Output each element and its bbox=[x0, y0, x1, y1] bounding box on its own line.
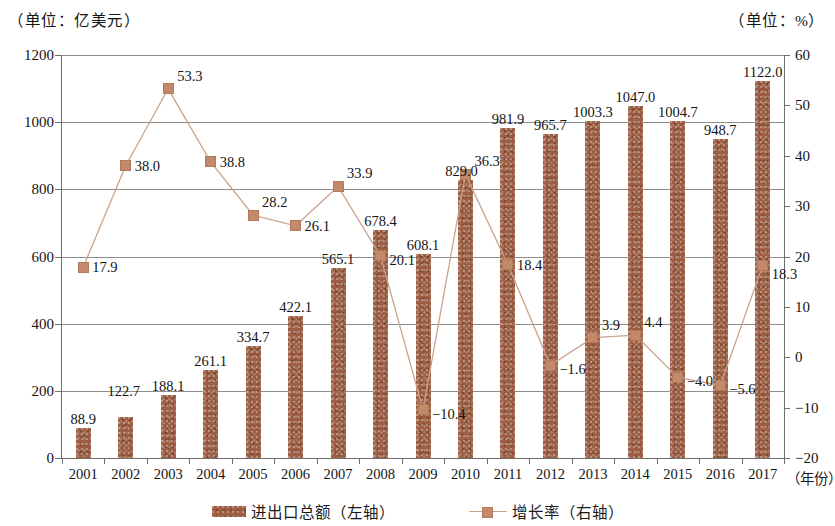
line-value-label: 26.1 bbox=[305, 219, 330, 234]
bar-value-label: 334.7 bbox=[218, 330, 288, 345]
line-marker-swatch-icon bbox=[469, 506, 507, 517]
x-tick bbox=[529, 458, 530, 464]
x-tick bbox=[189, 458, 190, 464]
growth-rate-marker bbox=[120, 160, 131, 171]
line-value-label: 28.2 bbox=[262, 195, 287, 210]
x-tick bbox=[487, 458, 488, 464]
growth-rate-marker bbox=[715, 380, 726, 391]
x-tick bbox=[444, 458, 445, 464]
right-axis-tick-label: 10 bbox=[795, 300, 835, 315]
legend-label-bar: 进出口总额（左轴） bbox=[251, 500, 395, 522]
growth-rate-marker bbox=[78, 262, 89, 273]
growth-rate-marker bbox=[545, 360, 556, 371]
chart-legend: 进出口总额（左轴） 增长率（右轴） bbox=[0, 496, 835, 526]
left-axis-tick-label: 800 bbox=[0, 182, 54, 197]
left-tick bbox=[55, 458, 61, 459]
right-tick bbox=[784, 105, 790, 106]
right-tick bbox=[784, 408, 790, 409]
line-value-label: −1.6 bbox=[559, 362, 585, 377]
x-tick bbox=[784, 458, 785, 464]
left-tick bbox=[55, 257, 61, 258]
growth-rate-marker bbox=[375, 250, 386, 261]
right-tick bbox=[784, 307, 790, 308]
bar-value-label: 1122.0 bbox=[728, 65, 798, 80]
bar-value-label: 608.1 bbox=[388, 238, 458, 253]
right-axis-tick-label: −10 bbox=[795, 401, 835, 416]
x-tick bbox=[614, 458, 615, 464]
bar-value-label: 422.1 bbox=[261, 300, 331, 315]
growth-rate-marker bbox=[630, 330, 641, 341]
line-value-label: 17.9 bbox=[92, 260, 117, 275]
growth-rate-marker bbox=[757, 260, 768, 271]
right-axis-tick-label: 30 bbox=[795, 199, 835, 214]
right-tick bbox=[784, 257, 790, 258]
bar-value-label: 678.4 bbox=[346, 214, 416, 229]
bar-swatch-icon bbox=[212, 506, 246, 517]
x-tick bbox=[572, 458, 573, 464]
growth-rate-marker bbox=[290, 220, 301, 231]
right-axis-unit-label: （单位：%） bbox=[729, 8, 825, 30]
left-tick bbox=[55, 122, 61, 123]
x-axis-tick-label: 2017 bbox=[733, 467, 793, 482]
bar-value-label: 1003.3 bbox=[558, 105, 628, 120]
legend-item-bar[interactable]: 进出口总额（左轴） bbox=[212, 500, 395, 522]
left-tick bbox=[55, 189, 61, 190]
x-tick bbox=[274, 458, 275, 464]
bar-value-label: 88.9 bbox=[48, 412, 118, 427]
growth-rate-marker bbox=[418, 404, 429, 415]
growth-rate-marker bbox=[587, 332, 598, 343]
x-tick bbox=[147, 458, 148, 464]
left-axis-unit-label: （单位：亿美元） bbox=[8, 8, 140, 30]
right-axis-tick-label: 60 bbox=[795, 48, 835, 63]
right-tick bbox=[784, 206, 790, 207]
line-value-label: 20.1 bbox=[390, 253, 415, 268]
chart-container: （单位：亿美元） （单位：%） 020040060080010001200 −2… bbox=[0, 0, 835, 526]
line-value-label: −10.4 bbox=[432, 407, 466, 422]
line-value-label: 18.3 bbox=[772, 267, 797, 282]
bar-value-label: 1004.7 bbox=[643, 105, 713, 120]
right-axis-tick-label: 0 bbox=[795, 350, 835, 365]
x-tick bbox=[402, 458, 403, 464]
right-axis-tick-label: 40 bbox=[795, 149, 835, 164]
plot-area: 020040060080010001200 −20−10010203040506… bbox=[62, 55, 784, 458]
right-axis-tick-label: 50 bbox=[795, 98, 835, 113]
growth-rate-marker bbox=[333, 181, 344, 192]
growth-rate-marker bbox=[672, 372, 683, 383]
right-axis-tick-label: 20 bbox=[795, 250, 835, 265]
right-tick bbox=[784, 55, 790, 56]
growth-rate-marker bbox=[248, 210, 259, 221]
left-axis-tick-label: 400 bbox=[0, 317, 54, 332]
left-axis-tick-label: 600 bbox=[0, 250, 54, 265]
x-tick bbox=[657, 458, 658, 464]
left-tick bbox=[55, 391, 61, 392]
x-tick bbox=[62, 458, 63, 464]
left-axis-tick-label: 200 bbox=[0, 384, 54, 399]
x-axis-title: （年份） bbox=[786, 467, 835, 488]
right-tick bbox=[784, 357, 790, 358]
x-tick bbox=[359, 458, 360, 464]
legend-item-line[interactable]: 增长率（右轴） bbox=[469, 500, 624, 522]
growth-rate-marker bbox=[205, 156, 216, 167]
left-tick bbox=[55, 324, 61, 325]
line-value-label: −5.6 bbox=[729, 382, 755, 397]
bar-value-label: 948.7 bbox=[685, 123, 755, 138]
right-tick bbox=[784, 156, 790, 157]
bar-value-label: 565.1 bbox=[303, 252, 373, 267]
x-tick bbox=[104, 458, 105, 464]
x-tick bbox=[232, 458, 233, 464]
x-tick bbox=[317, 458, 318, 464]
bar-value-label: 261.1 bbox=[176, 354, 246, 369]
legend-label-line: 增长率（右轴） bbox=[512, 500, 624, 522]
line-value-label: 53.3 bbox=[177, 69, 202, 84]
left-axis-tick-label: 1000 bbox=[0, 115, 54, 130]
right-axis-tick-label: −20 bbox=[795, 451, 835, 466]
line-value-label: 3.9 bbox=[602, 318, 620, 333]
bar-value-label: 1047.0 bbox=[600, 90, 670, 105]
line-value-label: 18.4 bbox=[517, 258, 542, 273]
line-value-label: 38.0 bbox=[135, 159, 160, 174]
line-value-label: 33.9 bbox=[347, 166, 372, 181]
line-value-label: 36.3 bbox=[474, 154, 499, 169]
growth-rate-marker bbox=[502, 259, 513, 270]
left-axis-tick-label: 1200 bbox=[0, 48, 54, 63]
left-tick bbox=[55, 55, 61, 56]
